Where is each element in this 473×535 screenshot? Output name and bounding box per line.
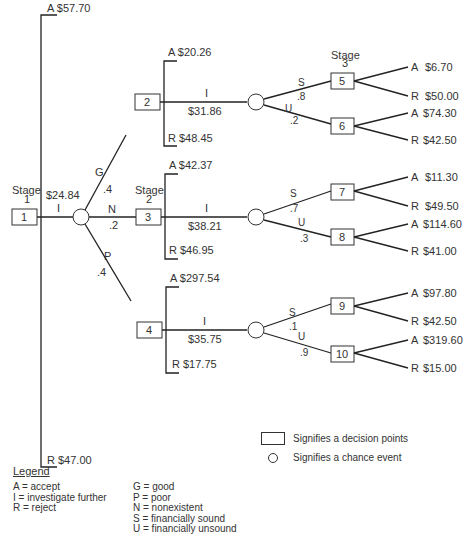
chance4-sound-branch	[264, 304, 331, 327]
branch-good-letter: G	[95, 166, 104, 178]
stage3-stage-num: 3	[342, 57, 348, 69]
branch-poor	[85, 224, 131, 301]
decision-node-9-group: 9 A $97.80 R $42.50	[331, 287, 457, 327]
chance4-sound-letter: S	[289, 307, 296, 318]
node10-accept-letter: A	[411, 334, 419, 346]
node5-accept-value: $6.70	[425, 61, 453, 73]
chance2-sound-letter: S	[298, 77, 305, 88]
decision-node-8-label: 8	[339, 231, 345, 243]
node4-reject-label: R $17.75	[172, 358, 217, 370]
decision-node-5-label: 5	[339, 75, 345, 87]
chance-node-4	[248, 322, 264, 338]
node7-reject-letter: R	[411, 200, 419, 212]
decision-node-10-label: 10	[336, 348, 348, 360]
chance-node-1	[73, 209, 89, 225]
chance3-unsound-prob: .3	[300, 233, 309, 244]
node2-investigate-letter: I	[205, 87, 208, 99]
node9-accept-value: $97.80	[423, 287, 457, 299]
node3-reject-label: R $46.95	[169, 244, 214, 256]
decision-point-square-icon	[261, 432, 285, 445]
branch-nonexistent-prob: .2	[109, 219, 118, 231]
branch-poor-letter: P	[104, 250, 111, 262]
branch-poor-prob: .4	[97, 266, 106, 278]
node8-reject-value: $41.00	[423, 245, 457, 257]
chance3-sound-prob: .7	[290, 203, 299, 214]
decision-node-1-label: 1	[21, 211, 27, 223]
node4-accept-label: A $297.54	[170, 272, 220, 284]
node4-investigate-value: $35.75	[188, 333, 222, 345]
chance-node-2	[248, 94, 264, 110]
node8-accept-value: $114.60	[423, 218, 462, 230]
decision-node-10-group: 10 A $319.60 R $15.00	[331, 334, 463, 374]
stage1-accept-label: A $57.70	[47, 2, 90, 14]
node8-accept-letter: A	[411, 218, 419, 230]
node9-reject-value: $42.50	[423, 315, 457, 327]
legend-chance-symbol-row: Signifies a chance event	[261, 452, 401, 463]
decision-node-8-group: 8 A $114.60 R $41.00	[331, 218, 462, 257]
decision-node-7-group: 7 A $11.30 R $49.50	[331, 171, 459, 212]
decision-node-2-label: 2	[144, 96, 150, 108]
node2-investigate-value: $31.86	[188, 105, 222, 117]
node6-reject-letter: R	[411, 134, 419, 146]
node3-accept-label: A $42.37	[169, 159, 212, 171]
node10-reject-value: $15.00	[423, 362, 457, 374]
node5-reject-value: $50.00	[425, 90, 459, 102]
node9-accept-letter: A	[411, 287, 419, 299]
node3-investigate-letter: I	[205, 202, 208, 214]
legend-decision-symbol-row: Signifies a decision points	[261, 432, 408, 445]
chance4-unsound-prob: .9	[300, 347, 309, 358]
node9-reject-letter: R	[411, 315, 419, 327]
node6-accept-letter: A	[411, 107, 419, 119]
chance2-unsound-prob: .2	[290, 115, 299, 126]
chance3-sound-letter: S	[290, 188, 297, 199]
decision-node-6-label: 6	[339, 120, 345, 132]
legend-left-column: A = accept I = investigate further R = r…	[13, 482, 107, 514]
legend-item-unsound: U = financially unsound	[133, 524, 237, 535]
chance-event-circle-icon	[268, 453, 278, 463]
decision-node-6-group: 6 A $74.30 R $42.50	[331, 107, 457, 146]
legend-item-good: G = good	[133, 482, 237, 493]
legend-item-reject: R = reject	[13, 503, 107, 514]
node5-accept-letter: A	[411, 61, 419, 73]
stage1-investigate-letter: I	[57, 202, 60, 214]
branch-nonexistent-letter: N	[108, 203, 116, 215]
chance3-unsound-letter: U	[298, 217, 305, 228]
stage1-reject-label: R $47.00	[47, 454, 92, 466]
legend-chance-symbol-label: Signifies a chance event	[293, 452, 401, 463]
decision-node-7-label: 7	[339, 186, 345, 198]
legend-right-column: G = good P = poor N = nonexistent S = fi…	[133, 482, 237, 535]
legend-decision-symbol-label: Signifies a decision points	[293, 433, 408, 444]
stage1-accept-reject-spine	[41, 15, 57, 467]
branch-good	[85, 135, 126, 210]
node4-investigate-letter: I	[203, 315, 206, 327]
chance-node-3	[248, 209, 264, 225]
chance2-unsound-letter: U	[285, 103, 292, 114]
node6-reject-value: $42.50	[423, 134, 457, 146]
node3-investigate-value: $38.21	[188, 220, 222, 232]
branch-good-prob: .4	[103, 183, 112, 195]
node7-accept-letter: A	[411, 171, 419, 183]
stage1-stage-num: 1	[24, 193, 30, 205]
chance4-sound-prob: .1	[289, 321, 298, 332]
node2-reject-label: R $48.45	[168, 132, 213, 144]
chance2-sound-prob: .8	[297, 91, 306, 102]
decision-node-4-label: 4	[146, 324, 152, 336]
node10-accept-value: $319.60	[423, 334, 463, 346]
node6-accept-value: $74.30	[423, 107, 457, 119]
legend-title: Legend	[13, 465, 50, 477]
node2-accept-label: A $20.26	[168, 46, 211, 58]
node7-reject-value: $49.50	[425, 200, 459, 212]
node5-reject-letter: R	[411, 90, 419, 102]
node10-reject-letter: R	[411, 362, 419, 374]
chance4-unsound-letter: U	[298, 331, 305, 342]
node8-reject-letter: R	[411, 245, 419, 257]
legend-item-nonexistent: N = nonexistent	[133, 503, 237, 514]
decision-node-9-label: 9	[339, 300, 345, 312]
stage1-investigate-value: $24.84	[46, 189, 80, 201]
decision-node-5-group: 5 A $6.70 R $50.00	[331, 61, 459, 102]
decision-node-3-label: 3	[145, 211, 151, 223]
stage2-stage-num: 2	[146, 193, 152, 205]
node7-accept-value: $11.30	[425, 171, 458, 183]
legend-item-accept: A = accept	[13, 482, 107, 493]
